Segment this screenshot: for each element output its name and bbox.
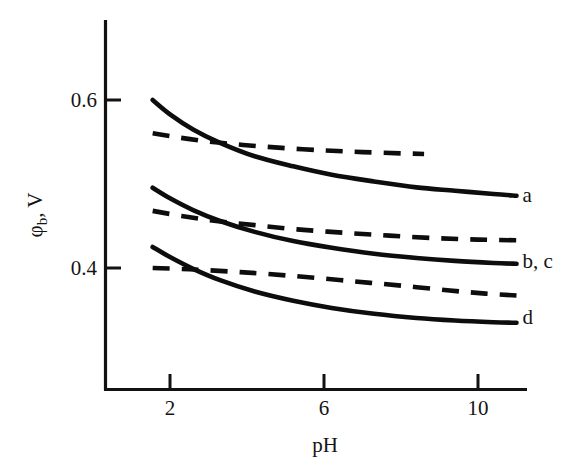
label-a: a <box>523 183 533 207</box>
y-axis-title-text: φb, V <box>23 193 50 238</box>
label-bc: b, c <box>523 249 553 273</box>
chart-background <box>0 0 585 466</box>
label-d: d <box>523 305 534 329</box>
y-axis-title-symbol: φ <box>23 225 47 237</box>
x-tick-label-6: 6 <box>319 396 330 420</box>
y-axis-title: φb, V <box>23 193 50 238</box>
y-tick-label-0.6: 0.6 <box>71 88 97 112</box>
chart-canvas: 0.40.6 2610 ab, cd φb, V pH <box>0 0 585 466</box>
x-tick-label-10: 10 <box>468 396 489 420</box>
chart-figure: 0.40.6 2610 ab, cd φb, V pH <box>0 0 585 466</box>
y-axis-title-subscript: b <box>34 218 50 226</box>
x-tick-label-2: 2 <box>165 396 176 420</box>
y-tick-label-0.4: 0.4 <box>71 256 98 280</box>
y-axis-title-unit: , V <box>23 193 47 218</box>
x-axis-title: pH <box>312 433 338 457</box>
